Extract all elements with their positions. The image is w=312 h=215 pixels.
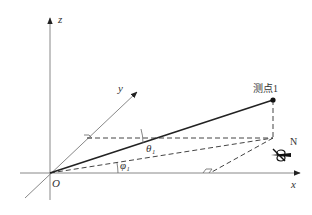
z-axis-label: z <box>58 14 62 25</box>
y-axis-label: y <box>118 83 123 94</box>
measurement-point <box>270 97 275 102</box>
y-axis <box>25 92 137 198</box>
phi-arc <box>117 163 118 173</box>
north-label: N <box>290 137 297 147</box>
phi-angle-label: φ₁ <box>120 160 130 171</box>
diagram-canvas: z y x O 测点1 θ₁ φ₁ N <box>0 0 312 215</box>
diagram-svg <box>0 0 312 215</box>
theta-angle-label: θ₁ <box>146 143 155 154</box>
origin-label: O <box>52 178 60 189</box>
measurement-point-label: 测点1 <box>253 84 278 94</box>
theta-arc <box>141 129 143 143</box>
x-axis-label: x <box>291 179 296 190</box>
right-angle-mark-x <box>203 169 212 173</box>
north-arrow-icon <box>271 149 291 161</box>
vector-to-point <box>50 100 273 173</box>
